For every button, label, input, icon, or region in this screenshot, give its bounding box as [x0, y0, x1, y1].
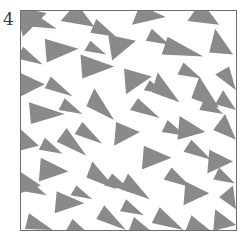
triangle-marker: [21, 126, 39, 152]
triangle-marker: [59, 98, 83, 114]
plot-frame: [20, 10, 237, 231]
triangle-marker: [213, 168, 235, 184]
triangle-marker: [75, 122, 103, 144]
triangle-group: [21, 11, 236, 230]
triangle-marker: [71, 185, 93, 199]
triangle-marker: [213, 209, 236, 230]
triangle-marker: [108, 35, 136, 61]
triangle-marker: [25, 213, 53, 230]
triangle-marker: [33, 15, 57, 29]
triangle-marker: [90, 19, 116, 37]
triangle-marker: [219, 185, 236, 209]
triangle-marker: [45, 76, 73, 96]
triangle-marker: [209, 29, 233, 55]
triangle-marker: [84, 41, 106, 55]
triangle-marker: [80, 55, 114, 79]
triangle-marker: [152, 207, 184, 230]
triangle-marker: [146, 29, 170, 45]
triangle-marker: [45, 39, 79, 63]
triangle-marker: [130, 98, 160, 118]
triangle-marker: [21, 72, 45, 98]
triangle-marker: [215, 66, 236, 90]
triangle-marker: [86, 88, 114, 120]
triangle-marker: [185, 215, 213, 230]
triangle-marker: [183, 140, 211, 160]
panel-label: 4: [3, 10, 14, 28]
triangle-marker: [120, 199, 144, 215]
triangle-marker: [162, 37, 204, 57]
triangle-marker: [142, 146, 172, 170]
triangle-marker: [65, 219, 93, 230]
triangle-marker-canvas: [21, 11, 236, 230]
triangle-marker: [178, 116, 206, 140]
figure-panel: 4: [0, 0, 247, 246]
triangle-marker: [213, 114, 236, 140]
triangle-marker: [187, 11, 219, 25]
triangle-marker: [164, 168, 192, 188]
triangle-marker: [178, 63, 202, 79]
triangle-marker: [132, 11, 166, 25]
triangle-marker: [61, 11, 95, 27]
triangle-marker: [29, 102, 65, 124]
triangle-marker: [114, 122, 140, 146]
triangle-marker: [128, 217, 156, 230]
triangle-marker: [21, 47, 43, 65]
triangle-marker: [39, 158, 69, 182]
